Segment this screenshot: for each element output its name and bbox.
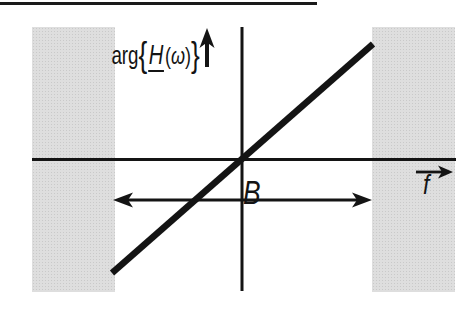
- y-axis-label: arg{H(ω)}: [112, 34, 200, 72]
- close-brace: }: [191, 37, 200, 72]
- open-brace: {: [139, 37, 148, 72]
- axes-layer: [0, 0, 474, 334]
- transfer-function-symbol: H: [148, 42, 164, 72]
- bandwidth-label: B: [243, 176, 261, 209]
- arg-function-text: arg: [112, 43, 139, 68]
- x-axis-direction-arrow: [416, 166, 453, 179]
- x-axis-label: f: [423, 172, 429, 199]
- omega-variable: ω: [171, 44, 185, 68]
- phase-response-figure: arg{H(ω)} B f: [0, 0, 474, 334]
- y-axis-direction-arrow: [200, 28, 215, 67]
